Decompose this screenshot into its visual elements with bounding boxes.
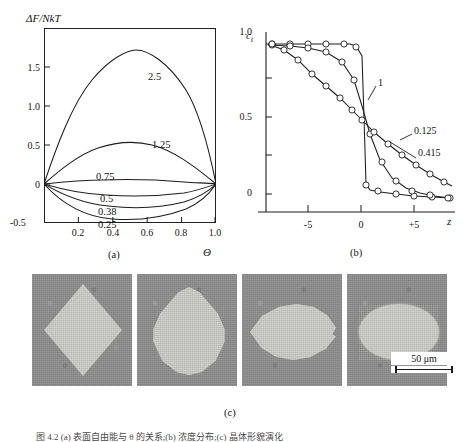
panel-b-ytick-1_0: 1.0 (226, 27, 252, 37)
curve-b-0_125 (268, 44, 452, 186)
panel-a-ytick-0_5: 0.5 (16, 141, 40, 151)
panel-a-xtick-1_0: 1.0 (200, 228, 230, 238)
panel-b-y-ticks (266, 44, 272, 194)
panel-b-ytick-0_5: 0.5 (226, 112, 252, 122)
curve-alpha-0_25 (44, 184, 216, 220)
panel-a-xtick-0_2: 0.2 (63, 228, 93, 238)
curve-label-1_25: 1.25 (152, 140, 170, 151)
panel-a-xlabel: Θ (203, 247, 211, 258)
panel-a-y-ticks (44, 67, 50, 223)
panel-b-concentration-chart: ct (232, 0, 467, 268)
panel-b-xtick-pos5: +5 (399, 220, 429, 230)
micrograph-3 (242, 274, 342, 386)
panel-a-curves (44, 28, 216, 223)
scale-bar-cap-right (451, 366, 453, 373)
curve-alpha-0_5 (44, 184, 216, 196)
panel-a-ytick-0: 0 (16, 180, 40, 190)
figure-root: ΔF/NkT (0, 0, 467, 442)
curve-label-b-0_415: 0.415 (418, 148, 441, 158)
panel-a-ytick-neg0_5: -0.5 (10, 218, 26, 228)
panel-a-free-energy-chart: ΔF/NkT (0, 0, 232, 268)
curve-alpha-0_75 (44, 180, 216, 184)
panel-b-x-ticks (308, 205, 414, 212)
curve-label-b-1: 1 (378, 78, 383, 88)
curve-label-0_38: 0.38 (98, 207, 116, 218)
curve-label-2_5: 2.5 (148, 72, 161, 83)
panel-a-ytick-1_0: 1.0 (16, 102, 40, 112)
curve-label-0_5: 0.5 (100, 194, 113, 205)
curve-alpha-1_25 (44, 143, 216, 184)
scale-bar: 50 μm (391, 352, 457, 373)
scale-bar-rule (395, 369, 453, 371)
leader-line-1 (368, 86, 376, 100)
panel-b-xtick-0: 0 (346, 220, 376, 230)
curve-label-0_25: 0.25 (98, 220, 116, 231)
panel-a-tag: (a) (108, 250, 120, 261)
scale-bar-cap-left (395, 366, 397, 373)
scale-bar-label: 50 μm (391, 352, 457, 365)
panel-a-xtick-0_6: 0.6 (132, 228, 162, 238)
micrograph-2 (137, 274, 237, 386)
curve-label-0_75: 0.75 (96, 172, 114, 183)
panel-b-markers-0_125 (269, 41, 447, 185)
panel-a-ytick-1_5: 1.5 (16, 63, 40, 73)
leader-line-0_125 (400, 134, 412, 140)
panel-b-ytick-0: 0 (226, 188, 252, 198)
figure-caption: 图 4.2 (a) 表面自由能与 θ 的关系;(b) 浓度分布;(c) 晶体形貌… (36, 432, 456, 442)
panel-c-tag: (c) (224, 408, 236, 419)
scale-bar-line (391, 366, 457, 373)
panel-b-xlabel: z (447, 216, 451, 227)
panel-a-ylabel: ΔF/NkT (26, 13, 61, 24)
panel-c-micrographs: 50 μm (c) (0, 266, 467, 416)
panel-b-xtick-neg5: -5 (293, 220, 323, 230)
panel-b-tag: (b) (350, 248, 362, 259)
micrograph-1 (32, 274, 132, 386)
panel-a-xtick-0_8: 0.8 (166, 228, 196, 238)
curve-label-b-0_125: 0.125 (414, 126, 437, 136)
